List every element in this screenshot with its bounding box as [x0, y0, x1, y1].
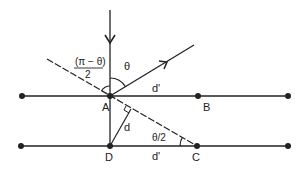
label-d-prime-top: d': [152, 82, 160, 94]
point-upper-right: [285, 93, 291, 99]
point-lower-left: [18, 143, 24, 149]
point-D: [107, 143, 113, 149]
label-C: C: [192, 151, 200, 163]
diagram-canvas: A B D C θ (π − θ) 2 θ/2 d d' d': [0, 0, 302, 171]
label-D: D: [105, 151, 113, 163]
label-half-angle-denominator: 2: [85, 69, 91, 80]
point-A: [107, 93, 113, 99]
label-theta-half: θ/2: [152, 132, 166, 143]
theta-arc: [110, 78, 126, 87]
label-d: d: [124, 121, 130, 133]
label-B: B: [203, 101, 210, 113]
point-upper-left: [19, 93, 25, 99]
point-C: [194, 143, 200, 149]
geometry-diagram: A B D C θ (π − θ) 2 θ/2 d d' d': [0, 0, 302, 171]
point-B: [195, 93, 201, 99]
theta-half-arc: [180, 138, 182, 147]
point-lower-right: [285, 143, 291, 149]
bisector-line: [47, 59, 197, 146]
label-theta: θ: [124, 60, 130, 72]
right-angle-mark: [124, 106, 129, 113]
label-A: A: [102, 101, 110, 113]
label-half-angle-numerator: (π − θ): [75, 56, 106, 67]
label-d-prime-bottom: d': [152, 150, 160, 162]
half-angle-arc: [101, 86, 110, 91]
